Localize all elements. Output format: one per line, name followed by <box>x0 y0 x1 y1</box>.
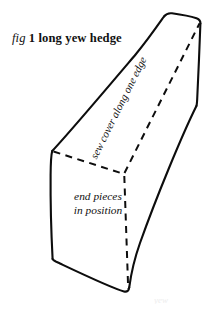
page-bleed-artifact: yew <box>154 295 206 304</box>
figure-page: fig 1 long yew hedge end pieces in posit… <box>0 0 218 312</box>
figure-caption: fig 1 long yew hedge <box>12 31 122 45</box>
label-end-pieces: end pieces in position <box>59 190 137 218</box>
label-end-pieces-line2: in position <box>59 204 137 218</box>
label-end-pieces-line1: end pieces <box>59 190 137 204</box>
caption-title-text: 1 long yew hedge <box>29 31 122 45</box>
caption-fig-word: fig <box>12 31 26 45</box>
box-face-left-end <box>53 152 129 292</box>
outline-near-end-left <box>51 151 53 259</box>
hedge-box-drawing <box>0 0 218 312</box>
